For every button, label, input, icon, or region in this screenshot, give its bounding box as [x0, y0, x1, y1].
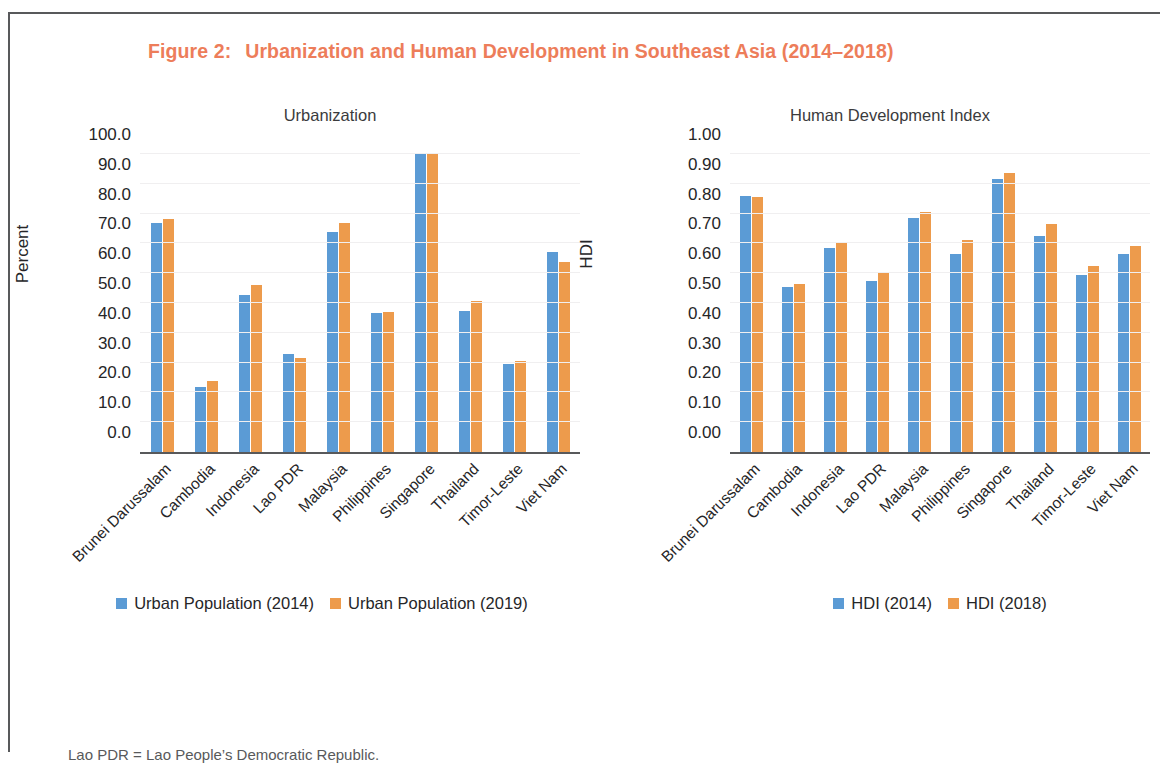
y-axis-tick-label: 0.70: [688, 214, 721, 234]
bar: [794, 284, 805, 452]
bar-group: [448, 154, 492, 452]
legend-item[interactable]: HDI (2018): [948, 594, 1047, 613]
bar: [251, 285, 262, 452]
bar: [503, 364, 514, 453]
bar: [1118, 254, 1129, 452]
legend-label: HDI (2014): [851, 594, 932, 613]
bar-group: [272, 154, 316, 452]
bar-group: [492, 154, 536, 452]
gridline: [140, 213, 580, 214]
bar: [1046, 224, 1057, 452]
gridline: [730, 302, 1150, 303]
y-axis-tick-label: 0.20: [688, 363, 721, 383]
bar-group: [1066, 154, 1108, 452]
gridline: [140, 302, 580, 303]
y-axis-tick-label: 0.10: [688, 393, 721, 413]
y-axis-tick-label: 0.00: [688, 423, 721, 443]
bar: [1088, 266, 1099, 452]
y-axis-tick-label: 50.0: [98, 274, 131, 294]
gridline: [140, 362, 580, 363]
legend-label: Urban Population (2019): [348, 594, 528, 613]
gridline: [140, 391, 580, 392]
gridline: [730, 272, 1150, 273]
bar: [283, 354, 294, 452]
y-axis-tick-label: 0.50: [688, 274, 721, 294]
bar: [950, 254, 961, 452]
bar: [195, 387, 206, 452]
legend-item[interactable]: Urban Population (2014): [116, 594, 314, 613]
y-axis-tick-label: 0.60: [688, 244, 721, 264]
y-axis-tick-label: 70.0: [98, 214, 131, 234]
plot-area-hdi: Brunei DarussalamCambodiaIndonesiaLao PD…: [730, 154, 1150, 454]
bar: [239, 295, 250, 452]
x-axis-categories-hdi: Brunei DarussalamCambodiaIndonesiaLao PD…: [730, 454, 1150, 584]
gridline: [730, 153, 1150, 154]
bar: [327, 232, 338, 452]
footnotes-urbanization: Lao PDR = Lao People’s Democratic Republ…: [68, 744, 588, 768]
gridline: [140, 242, 580, 243]
y-axis-tick-label: 40.0: [98, 304, 131, 324]
gridline: [730, 362, 1150, 363]
y-axis-tick-label: 0.30: [688, 334, 721, 354]
bar-group: [228, 154, 272, 452]
bar-group: [940, 154, 982, 452]
bar: [371, 313, 382, 452]
chart-title-hdi: Human Development Index: [610, 106, 1170, 125]
gridline: [140, 272, 580, 273]
y-axis-label-percent: Percent: [13, 225, 33, 284]
y-axis-tick-label: 0.0: [107, 423, 131, 443]
legend-label: HDI (2018): [966, 594, 1047, 613]
y-axis-tick-label: 90.0: [98, 155, 131, 175]
bar-group: [184, 154, 228, 452]
bar-group: [140, 154, 184, 452]
gridline: [730, 421, 1150, 422]
footnote-line: Lao PDR = Lao People’s Democratic Republ…: [68, 744, 588, 767]
bar: [752, 197, 763, 452]
bar-group: [772, 154, 814, 452]
gridline: [140, 153, 580, 154]
bar: [339, 223, 350, 452]
bar-group: [360, 154, 404, 452]
bar-group: [536, 154, 580, 452]
bar: [415, 154, 426, 452]
bar-groups-hdi: [730, 154, 1150, 452]
legend-swatch-icon: [116, 598, 127, 609]
bar-group: [404, 154, 448, 452]
bar-group: [1024, 154, 1066, 452]
y-axis-tick-label: 20.0: [98, 363, 131, 383]
bar: [471, 301, 482, 452]
y-axis-tick-label: 30.0: [98, 334, 131, 354]
x-axis-categories-urbanization: Brunei DarussalamCambodiaIndonesiaLao PD…: [140, 454, 580, 584]
bar: [151, 223, 162, 452]
gridline: [730, 332, 1150, 333]
bar: [782, 287, 793, 452]
gridline: [730, 391, 1150, 392]
figure-title: Figure 2:Urbanization and Human Developm…: [148, 40, 894, 63]
chart-title-urbanization: Urbanization: [40, 106, 620, 125]
bar: [559, 262, 570, 452]
y-axis-tick-label: 1.00: [688, 125, 721, 145]
gridline: [140, 421, 580, 422]
bar: [515, 361, 526, 452]
gridline: [730, 242, 1150, 243]
y-axis-tick-label: 0.90: [688, 155, 721, 175]
legend-swatch-icon: [330, 598, 341, 609]
bar-group: [1108, 154, 1150, 452]
figure-frame: Figure 2:Urbanization and Human Developm…: [8, 12, 1160, 752]
bar-group: [898, 154, 940, 452]
plot-area-urbanization: Brunei DarussalamCambodiaIndonesiaLao PD…: [140, 154, 580, 454]
chart-panel-urbanization: Urbanization Percent Brunei DarussalamCa…: [30, 94, 610, 654]
y-axis-label-hdi: HDI: [577, 239, 597, 268]
bar: [908, 218, 919, 452]
bar-group: [982, 154, 1024, 452]
bar-group: [856, 154, 898, 452]
bar-group: [814, 154, 856, 452]
legend-swatch-icon: [833, 598, 844, 609]
bar: [992, 179, 1003, 452]
gridline: [730, 213, 1150, 214]
y-axis-tick-label: 100.0: [88, 125, 131, 145]
legend-item[interactable]: Urban Population (2019): [330, 594, 528, 613]
y-axis-tick-label: 10.0: [98, 393, 131, 413]
bar: [1004, 173, 1015, 452]
legend-item[interactable]: HDI (2014): [833, 594, 932, 613]
